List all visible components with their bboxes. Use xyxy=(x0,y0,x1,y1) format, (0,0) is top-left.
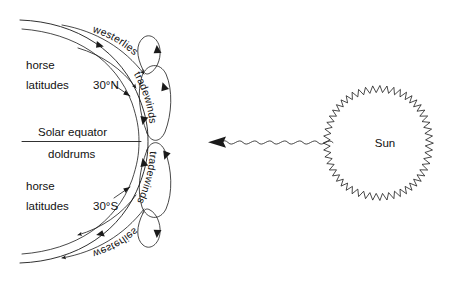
horse-latitudes-north-line1: horse xyxy=(26,59,55,71)
loop-westerlies-south xyxy=(138,209,160,247)
horse-latitudes-south-line2: latitudes xyxy=(26,200,69,212)
sun-group: Sun xyxy=(323,86,433,201)
label-westerlies-south-wrapper: westerlies xyxy=(91,226,141,261)
sun-label: Sun xyxy=(375,137,395,149)
ray-arrowhead-icon xyxy=(208,137,226,148)
diagram-canvas: westerlies tradewinds tradewinds westerl… xyxy=(0,0,456,283)
loop-tradewinds-south-arrow-up xyxy=(161,150,171,161)
solar-ray-group xyxy=(208,137,333,148)
solar-equator-label: Solar equator xyxy=(38,126,107,138)
wavy-ray-icon xyxy=(222,141,333,144)
horse-latitudes-south-line1: horse xyxy=(26,180,55,192)
loop-westerlies-north xyxy=(138,36,160,74)
horse-latitudes-north-line2: latitudes xyxy=(26,79,69,91)
loop-tradewinds-north-arrow-up xyxy=(159,81,169,92)
latitude-30s: 30°S xyxy=(93,200,118,212)
label-westerlies-south: westerlies xyxy=(91,226,141,261)
latitude-30n: 30°N xyxy=(93,79,119,91)
label-tradewinds-south: tradewinds xyxy=(135,151,160,206)
static-labels: horse latitudes 30°N Solar equator doldr… xyxy=(26,59,119,212)
doldrums-label: doldrums xyxy=(48,148,96,160)
label-westerlies-north: westerlies xyxy=(91,22,141,57)
diagram-svg: westerlies tradewinds tradewinds westerl… xyxy=(0,0,456,283)
